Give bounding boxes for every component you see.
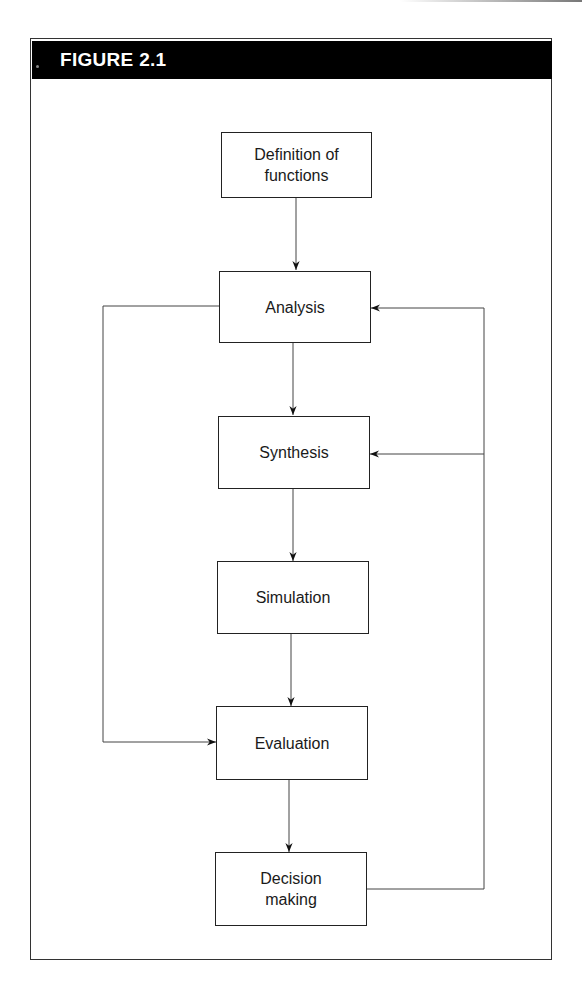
node-evaluation: Evaluation (216, 706, 368, 780)
node-label: Analysis (265, 297, 325, 318)
node-label-line: Decision (260, 868, 321, 889)
node-decision-making: Decision making (215, 852, 367, 926)
arrow-analysis-to-evaluation-bypass (103, 306, 219, 742)
node-label-line: Definition of (254, 144, 339, 165)
node-label: Simulation (256, 587, 331, 608)
node-label-line: functions (264, 165, 328, 186)
node-definition-of-functions: Definition of functions (221, 132, 372, 198)
node-synthesis: Synthesis (218, 416, 370, 489)
node-analysis: Analysis (219, 271, 371, 343)
arrow-decision-feedback-to-analysis (367, 308, 484, 889)
node-label-line: making (265, 889, 317, 910)
node-label: Evaluation (255, 733, 330, 754)
node-simulation: Simulation (217, 561, 369, 634)
node-label: Synthesis (259, 442, 328, 463)
